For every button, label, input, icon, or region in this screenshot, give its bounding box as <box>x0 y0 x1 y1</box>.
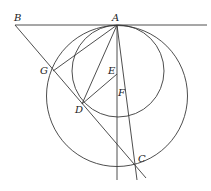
label-C: C <box>138 153 146 164</box>
label-B: B <box>13 12 21 23</box>
geometry-diagram: B A G E F D C <box>0 0 211 191</box>
label-E: E <box>107 65 116 76</box>
label-D: D <box>74 104 83 115</box>
label-G: G <box>40 65 48 76</box>
label-A: A <box>111 12 119 23</box>
line-BC <box>15 25 146 178</box>
line-AC <box>117 25 137 180</box>
small-circle <box>72 25 164 117</box>
line-DE <box>82 74 117 104</box>
label-F: F <box>117 87 126 98</box>
